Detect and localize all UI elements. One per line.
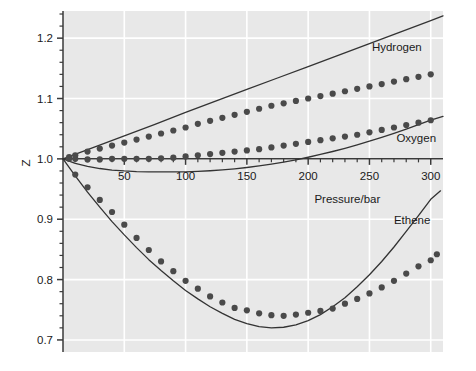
series-point-hydrogen <box>219 115 225 121</box>
series-point-hydrogen <box>415 74 421 80</box>
series-point-oxygen <box>97 156 103 162</box>
series-point-oxygen <box>72 156 78 162</box>
series-point-oxygen <box>330 135 336 141</box>
series-point-hydrogen <box>330 91 336 97</box>
series-point-oxygen <box>133 156 139 162</box>
x-tick-label: 150 <box>237 170 256 182</box>
series-point-ethene <box>293 311 299 317</box>
series-point-ethene <box>281 313 287 319</box>
series-point-ethene <box>330 305 336 311</box>
y-tick-label: 0.9 <box>37 213 53 225</box>
series-point-hydrogen <box>170 127 176 133</box>
series-point-ethene <box>121 222 127 228</box>
series-point-oxygen <box>366 129 372 135</box>
series-point-ethene <box>182 278 188 284</box>
x-tick-label: 100 <box>176 170 195 182</box>
series-point-ethene <box>232 305 238 311</box>
series-point-oxygen <box>281 142 287 148</box>
series-point-ethene <box>366 290 372 296</box>
series-point-hydrogen <box>281 100 287 106</box>
x-tick-label: 250 <box>360 170 379 182</box>
x-tick-label: 300 <box>421 170 440 182</box>
series-point-oxygen <box>354 132 360 138</box>
series-point-ethene <box>415 263 421 269</box>
series-point-ethene <box>428 257 434 263</box>
series-point-oxygen <box>403 122 409 128</box>
series-point-ethene <box>391 278 397 284</box>
series-point-ethene <box>109 209 115 215</box>
x-axis-label: Pressure/bar <box>314 193 380 205</box>
series-point-ethene <box>268 312 274 318</box>
series-point-oxygen <box>428 117 434 123</box>
x-tick-label: 200 <box>299 170 318 182</box>
series-point-hydrogen <box>97 146 103 152</box>
series-point-oxygen <box>317 137 323 143</box>
series-point-ethene-tail <box>434 251 440 257</box>
series-point-hydrogen <box>182 124 188 130</box>
y-tick-label: 1.0 <box>37 153 53 165</box>
y-tick-label: 1.2 <box>37 32 53 44</box>
series-point-ethene <box>317 308 323 314</box>
series-point-hydrogen <box>403 76 409 82</box>
series-point-oxygen <box>305 139 311 145</box>
series-point-hydrogen <box>195 121 201 127</box>
series-point-hydrogen <box>109 142 115 148</box>
series-point-ethene <box>354 296 360 302</box>
series-point-oxygen <box>256 146 262 152</box>
series-label-ethene: Ethene <box>394 214 430 226</box>
series-point-oxygen <box>84 156 90 162</box>
series-label-hydrogen: Hydrogen <box>372 41 422 53</box>
series-point-oxygen <box>232 149 238 155</box>
series-point-hydrogen <box>366 83 372 89</box>
series-point-ethene <box>72 171 78 177</box>
series-label-oxygen: Oxygen <box>396 132 436 144</box>
y-tick-label: 0.8 <box>37 274 53 286</box>
series-point-hydrogen <box>121 139 127 145</box>
series-point-ethene <box>158 258 164 264</box>
series-point-hydrogen <box>293 98 299 104</box>
y-tick-label: 0.7 <box>37 334 53 346</box>
series-point-hydrogen <box>244 109 250 115</box>
series-point-ethene <box>170 268 176 274</box>
series-point-oxygen <box>182 153 188 159</box>
series-point-hydrogen <box>317 93 323 99</box>
series-point-ethene <box>219 299 225 305</box>
series-point-ethene <box>207 293 213 299</box>
y-axis-label: Z <box>20 159 32 166</box>
series-point-oxygen <box>109 156 115 162</box>
series-point-ethene <box>146 247 152 253</box>
series-point-oxygen <box>158 155 164 161</box>
series-point-hydrogen <box>428 71 434 77</box>
series-point-oxygen <box>219 150 225 156</box>
series-point-ethene <box>342 301 348 307</box>
series-point-oxygen <box>268 144 274 150</box>
series-point-oxygen <box>391 124 397 130</box>
series-point-ethene <box>403 270 409 276</box>
series-point-ethene <box>379 284 385 290</box>
series-point-hydrogen <box>133 136 139 142</box>
x-tick-label: 50 <box>118 170 131 182</box>
series-point-hydrogen <box>256 106 262 112</box>
y-tick-label: 1.1 <box>37 93 53 105</box>
series-point-hydrogen <box>391 79 397 85</box>
series-point-oxygen <box>379 127 385 133</box>
series-point-oxygen <box>121 156 127 162</box>
series-point-ethene <box>195 286 201 292</box>
series-point-oxygen <box>146 156 152 162</box>
series-point-hydrogen <box>207 118 213 124</box>
series-point-oxygen <box>170 155 176 161</box>
series-point-ethene <box>256 310 262 316</box>
series-point-hydrogen <box>305 95 311 101</box>
series-point-hydrogen <box>84 149 90 155</box>
series-point-hydrogen <box>342 88 348 94</box>
series-point-oxygen <box>342 133 348 139</box>
series-point-hydrogen <box>268 103 274 109</box>
series-point-oxygen <box>195 152 201 158</box>
series-point-hydrogen <box>354 86 360 92</box>
series-point-ethene <box>84 184 90 190</box>
series-point-ethene <box>244 307 250 313</box>
series-point-oxygen <box>66 156 72 162</box>
series-point-hydrogen <box>158 130 164 136</box>
series-point-ethene <box>305 310 311 316</box>
series-point-ethene <box>97 197 103 203</box>
